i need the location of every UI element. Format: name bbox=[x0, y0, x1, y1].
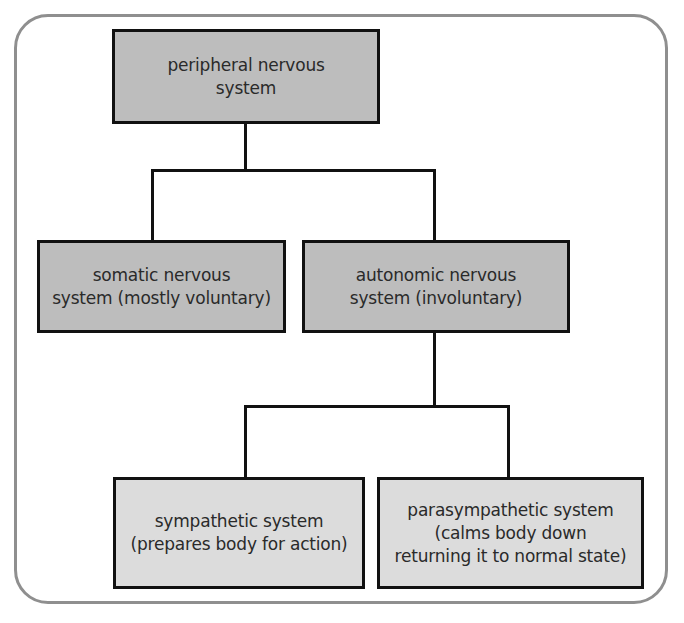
node-label-line: (calms body down bbox=[434, 522, 586, 545]
node-label-line: parasympathetic system bbox=[407, 499, 613, 522]
node-label-line: returning it to normal state) bbox=[395, 545, 627, 568]
connector-to-parasympathetic bbox=[507, 405, 510, 478]
node-parasympathetic-system: parasympathetic system (calms body down … bbox=[377, 477, 644, 589]
connector-to-autonomic bbox=[433, 169, 436, 241]
node-label-line: somatic nervous bbox=[93, 264, 231, 287]
node-label-line: autonomic nervous bbox=[356, 264, 516, 287]
connector-autonomic-down bbox=[433, 332, 436, 408]
node-sympathetic-system: sympathetic system (prepares body for ac… bbox=[113, 477, 365, 589]
node-label-line: peripheral nervous bbox=[167, 54, 324, 77]
connector-to-somatic bbox=[151, 169, 154, 241]
node-peripheral-nervous-system: peripheral nervous system bbox=[112, 29, 380, 124]
node-label-line: (prepares body for action) bbox=[130, 533, 347, 556]
node-autonomic-nervous-system: autonomic nervous system (involuntary) bbox=[302, 240, 570, 333]
node-somatic-nervous-system: somatic nervous system (mostly voluntary… bbox=[37, 240, 286, 333]
connector-peripheral-down bbox=[244, 123, 247, 171]
connector-level1-horizontal bbox=[151, 169, 436, 172]
connector-level2-horizontal bbox=[244, 405, 510, 408]
node-label-line: sympathetic system bbox=[155, 510, 324, 533]
node-label-line: system (involuntary) bbox=[350, 287, 523, 310]
connector-to-sympathetic bbox=[244, 405, 247, 478]
node-label-line: system (mostly voluntary) bbox=[52, 287, 271, 310]
node-label-line: system bbox=[216, 77, 276, 100]
